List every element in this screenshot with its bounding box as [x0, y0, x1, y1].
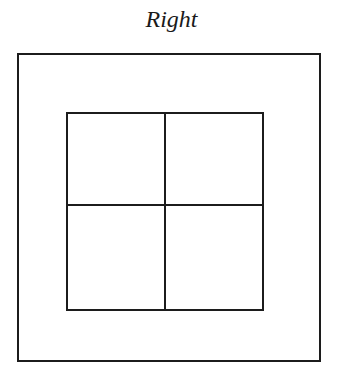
- inner-square: [66, 112, 264, 311]
- horizontal-divider: [68, 204, 262, 206]
- diagram-title: Right: [0, 6, 343, 33]
- vertical-divider: [164, 114, 166, 309]
